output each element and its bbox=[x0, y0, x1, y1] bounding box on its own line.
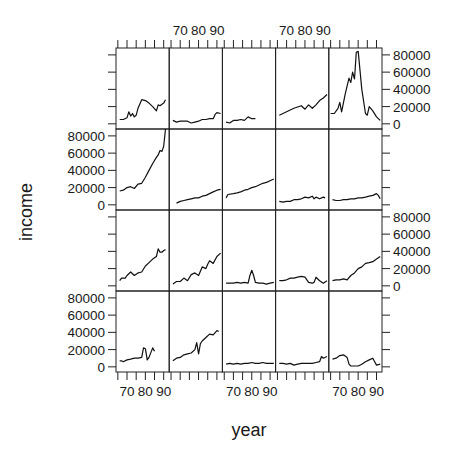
series-line-r3c4 bbox=[279, 276, 327, 283]
y-tick-label-right: 60000 bbox=[393, 227, 431, 242]
y-tick-label-left: 40000 bbox=[67, 163, 105, 178]
panel-r4c1 bbox=[116, 291, 169, 372]
y-tick-label-right: 0 bbox=[393, 117, 401, 132]
x-tick-label-bottom: 80 bbox=[244, 384, 259, 399]
panel-r4c2 bbox=[169, 291, 222, 372]
x-tick-label-bottom: 70 bbox=[332, 384, 347, 399]
axes: 7080907080907080907080907080900200004000… bbox=[67, 23, 430, 399]
lattice-chart: 7080907080907080907080907080900200004000… bbox=[0, 0, 464, 463]
y-tick-label-right: 80000 bbox=[393, 210, 431, 225]
y-tick-label-left: 0 bbox=[97, 360, 105, 375]
panel-r3c4 bbox=[276, 210, 329, 291]
y-tick-label-left: 20000 bbox=[67, 181, 105, 196]
panel-r1c4 bbox=[276, 48, 329, 129]
panel-grid bbox=[116, 48, 382, 372]
panel-r2c5 bbox=[329, 129, 382, 210]
x-tick-label-bottom: 70 bbox=[226, 384, 241, 399]
x-tick-label-bottom: 90 bbox=[369, 384, 384, 399]
panel-r4c3 bbox=[222, 291, 275, 372]
y-tick-label-left: 40000 bbox=[67, 325, 105, 340]
x-tick-label-bottom: 90 bbox=[263, 384, 278, 399]
series-line-r1c4 bbox=[279, 95, 327, 116]
series-line-r1c3 bbox=[226, 117, 255, 123]
panel-r2c3 bbox=[222, 129, 275, 210]
series-line-r3c1 bbox=[120, 249, 166, 281]
series-line-r4c5 bbox=[333, 355, 381, 366]
series-line-r2c3 bbox=[226, 179, 274, 198]
series-line-r2c4 bbox=[279, 196, 325, 202]
series-line-r4c3 bbox=[226, 363, 274, 365]
panel-r3c1 bbox=[116, 210, 169, 291]
series-line-r1c1 bbox=[120, 100, 166, 120]
y-tick-label-left: 60000 bbox=[67, 146, 105, 161]
y-tick-label-right: 0 bbox=[393, 279, 401, 294]
x-axis-title: year bbox=[231, 420, 266, 440]
x-tick-label-top: 90 bbox=[316, 23, 331, 38]
x-tick-label-top: 80 bbox=[191, 23, 206, 38]
x-tick-label-bottom: 70 bbox=[119, 384, 134, 399]
panel-r3c2 bbox=[169, 210, 222, 291]
x-tick-label-bottom: 80 bbox=[138, 384, 153, 399]
series-line-r1c2 bbox=[173, 113, 221, 123]
x-tick-label-top: 80 bbox=[297, 23, 312, 38]
series-line-r4c1 bbox=[120, 348, 155, 362]
series-line-r2c1 bbox=[120, 129, 166, 191]
series-line-r2c2 bbox=[177, 189, 221, 203]
series-line-r3c3 bbox=[226, 270, 274, 284]
y-tick-label-left: 60000 bbox=[67, 308, 105, 323]
y-tick-label-left: 20000 bbox=[67, 343, 105, 358]
y-tick-label-right: 20000 bbox=[393, 262, 431, 277]
y-tick-label-right: 40000 bbox=[393, 244, 431, 259]
y-tick-label-right: 20000 bbox=[393, 100, 431, 115]
y-tick-label-left: 80000 bbox=[67, 291, 105, 306]
y-axis-title: income bbox=[16, 183, 36, 241]
series-line-r4c4 bbox=[279, 357, 327, 366]
y-tick-label-right: 80000 bbox=[393, 48, 431, 63]
x-tick-label-bottom: 90 bbox=[156, 384, 171, 399]
x-tick-label-top: 70 bbox=[173, 23, 188, 38]
panel-r1c1 bbox=[116, 48, 169, 129]
series-line-r3c5 bbox=[333, 257, 381, 281]
panel-r3c5 bbox=[329, 210, 382, 291]
y-tick-label-right: 60000 bbox=[393, 65, 431, 80]
series-line-r2c5 bbox=[333, 194, 381, 201]
x-tick-label-bottom: 80 bbox=[351, 384, 366, 399]
series-line-r4c2 bbox=[173, 331, 219, 361]
series-line-r3c2 bbox=[173, 253, 221, 284]
y-tick-label-left: 0 bbox=[97, 198, 105, 213]
y-tick-label-left: 80000 bbox=[67, 129, 105, 144]
series-line-r1c5 bbox=[331, 51, 381, 120]
x-tick-label-top: 70 bbox=[279, 23, 294, 38]
y-tick-label-right: 40000 bbox=[393, 82, 431, 97]
x-tick-label-top: 90 bbox=[209, 23, 224, 38]
panel-r2c1 bbox=[116, 129, 169, 210]
